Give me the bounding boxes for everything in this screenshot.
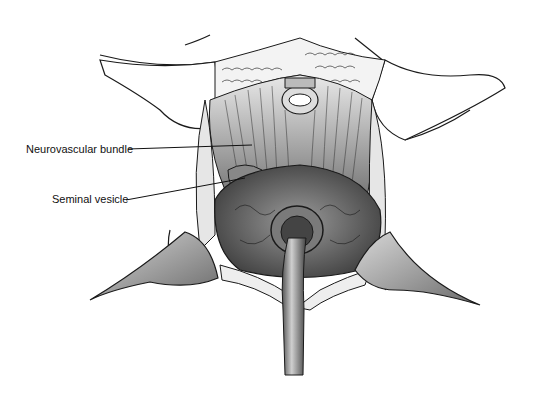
label-seminal-vesicle: Seminal vesicle bbox=[52, 193, 128, 205]
left-skin-flap bbox=[100, 60, 217, 129]
urethral-catheter bbox=[282, 238, 306, 375]
label-neurovascular-bundle: Neurovascular bundle bbox=[26, 143, 133, 155]
left-retractor bbox=[90, 232, 218, 300]
anal-ring bbox=[282, 78, 318, 114]
right-retractor bbox=[355, 232, 480, 305]
